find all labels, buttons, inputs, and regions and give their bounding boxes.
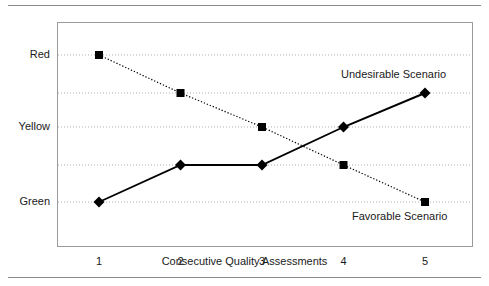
data-point-favorable-4	[340, 161, 348, 169]
chart-canvas	[0, 0, 489, 286]
data-point-undesirable-5	[420, 88, 431, 99]
data-point-favorable-5	[421, 198, 429, 206]
y-tick-label-green: Green	[4, 196, 50, 207]
figure-container: Red Yellow Green 1 2 3 4 5 Consecutive Q…	[0, 0, 489, 286]
x-axis-title: Consecutive Quality Assessments	[0, 255, 489, 267]
series-annotation-favorable: Favorable Scenario	[352, 210, 447, 222]
data-point-favorable-3	[258, 123, 266, 131]
series-annotation-undesirable: Undesirable Scenario	[341, 68, 446, 80]
data-point-undesirable-3	[257, 160, 268, 171]
data-point-favorable-1	[95, 51, 103, 59]
y-tick-label-red: Red	[4, 49, 50, 60]
y-tick-label-yellow: Yellow	[4, 121, 50, 132]
data-point-undesirable-1	[94, 197, 105, 208]
data-point-undesirable-4	[338, 122, 349, 133]
series-line-undesirable	[99, 93, 425, 202]
data-point-favorable-2	[177, 89, 185, 97]
data-point-undesirable-2	[175, 160, 186, 171]
